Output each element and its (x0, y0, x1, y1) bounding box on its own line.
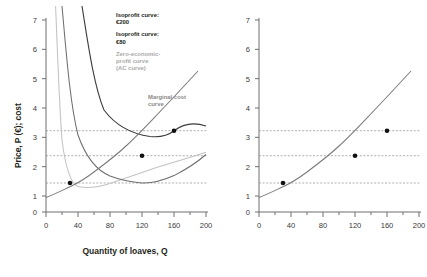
svg-text:0: 0 (257, 221, 261, 230)
y-axis-ticks-right: 7 6 5 4 3 2 1 0 (246, 16, 259, 217)
svg-text:6: 6 (246, 45, 250, 54)
svg-text:5: 5 (33, 75, 37, 84)
svg-text:40: 40 (287, 221, 295, 230)
legend-line-2: profit curve (116, 58, 196, 65)
figure-root: 7 6 5 4 3 2 1 0 (0, 0, 427, 277)
svg-text:120: 120 (136, 221, 149, 230)
y-axis-title-left: Price, P (€); cost (13, 103, 23, 168)
legend-item-zero-economic-profit: Zero-economic- profit curve (AC curve) (116, 51, 196, 73)
legend-line-2: €200 (116, 19, 196, 26)
svg-text:120: 120 (349, 221, 362, 230)
svg-text:80: 80 (319, 221, 327, 230)
svg-text:4: 4 (246, 104, 250, 113)
legend-line-3: (AC curve) (116, 65, 196, 72)
svg-text:80: 80 (106, 221, 114, 230)
svg-text:2: 2 (246, 163, 250, 172)
svg-text:6: 6 (33, 45, 37, 54)
chart-panel-right: 7 6 5 4 3 2 1 0 0 (213, 0, 426, 277)
svg-text:4: 4 (33, 104, 37, 113)
data-point-supply-2 (353, 153, 358, 158)
y-axis-ticks-left: 7 6 5 4 3 2 1 0 (33, 16, 46, 217)
svg-text:200: 200 (200, 221, 213, 230)
legend-line-1: Isoprofit curve: (116, 31, 196, 38)
chart-panel-left: 7 6 5 4 3 2 1 0 (0, 0, 213, 277)
data-point-supply-1 (281, 181, 286, 186)
legend-line-2: €80 (116, 39, 196, 46)
svg-text:1: 1 (33, 192, 37, 201)
svg-text:0: 0 (33, 208, 37, 217)
legend: Isoprofit curve: €200 Isoprofit curve: €… (116, 12, 196, 77)
data-point-zero-profit (68, 181, 73, 186)
svg-text:7: 7 (246, 16, 250, 25)
svg-text:160: 160 (381, 221, 394, 230)
dashed-price-lines-left (46, 131, 208, 183)
svg-text:1: 1 (246, 192, 250, 201)
data-point-isoprofit-80 (140, 153, 145, 158)
x-axis-title-left: Quantity of loaves, Q (40, 246, 210, 256)
svg-text:200: 200 (413, 221, 426, 230)
legend-item-isoprofit-80: Isoprofit curve: €80 (116, 31, 196, 45)
data-point-supply-3 (385, 128, 390, 133)
svg-text:3: 3 (246, 133, 250, 142)
curve-supply (259, 71, 411, 198)
svg-text:5: 5 (246, 75, 250, 84)
svg-text:2: 2 (33, 163, 37, 172)
x-axis-ticks-left: 0 40 80 120 160 200 (44, 212, 212, 230)
svg-text:3: 3 (33, 133, 37, 142)
marginal-cost-curve-label: Marginal cost curve (148, 94, 208, 109)
supply-points-right (281, 128, 390, 185)
svg-text:0: 0 (246, 208, 250, 217)
legend-item-isoprofit-200: Isoprofit curve: €200 (116, 12, 196, 26)
svg-text:7: 7 (33, 16, 37, 25)
x-axis-ticks-right: 0 40 80 120 160 200 (257, 212, 425, 230)
svg-text:40: 40 (74, 221, 82, 230)
svg-text:160: 160 (168, 221, 181, 230)
legend-line-1: Zero-economic- (116, 51, 196, 58)
plot-canvas-right: 7 6 5 4 3 2 1 0 0 (213, 0, 426, 277)
svg-text:0: 0 (44, 221, 48, 230)
dashed-price-lines-right (259, 131, 421, 183)
legend-line-1: Isoprofit curve: (116, 12, 196, 19)
data-point-isoprofit-200 (172, 128, 177, 133)
curve-marginal-cost (46, 71, 198, 198)
